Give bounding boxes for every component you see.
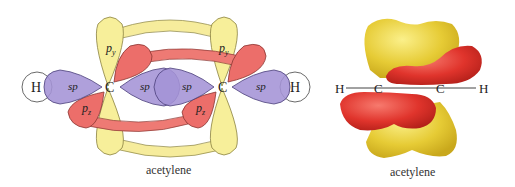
right-orbital-surface: H C C H	[335, 19, 488, 158]
caption-right: acetylene	[390, 165, 435, 180]
atom-label-c-right: C	[218, 80, 227, 95]
orbital-label-sp-c-left: sp	[140, 80, 150, 92]
atom-label-c-right-3d: C	[436, 81, 445, 96]
atom-label-h-left: H	[31, 80, 41, 95]
py-pi-bond-bottom	[120, 140, 220, 157]
red-lobe-lower	[340, 92, 436, 130]
orbital-diagram-canvas: H C C H sp sp sp sp py py pz pz H C C H	[0, 0, 515, 187]
atom-label-h-right: H	[290, 80, 300, 95]
orbital-label-sp-c-right: sp	[182, 80, 192, 92]
atom-label-c-left: C	[105, 80, 114, 95]
left-orbital-diagram: H C C H sp sp sp sp py py pz pz	[22, 17, 310, 157]
orbital-label-sp-h-right: sp	[256, 80, 266, 92]
atom-label-c-left-3d: C	[374, 81, 383, 96]
atom-label-h-left-3d: H	[335, 81, 344, 96]
orbital-label-sp-h-left: sp	[68, 80, 78, 92]
py-pi-bond-top	[120, 20, 220, 38]
atom-label-h-right-3d: H	[479, 81, 488, 96]
caption-left: acetylene	[146, 163, 191, 178]
